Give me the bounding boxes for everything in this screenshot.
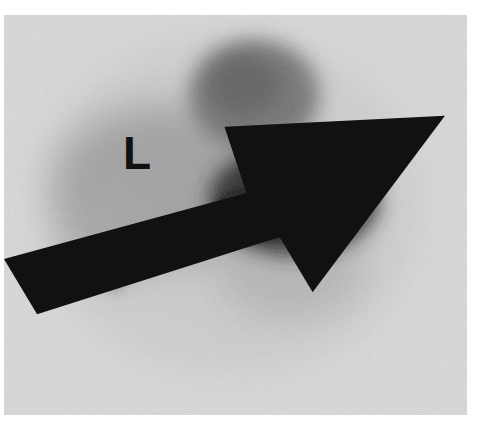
scan-image: L S xyxy=(4,15,467,415)
arrow-icon xyxy=(4,15,467,415)
